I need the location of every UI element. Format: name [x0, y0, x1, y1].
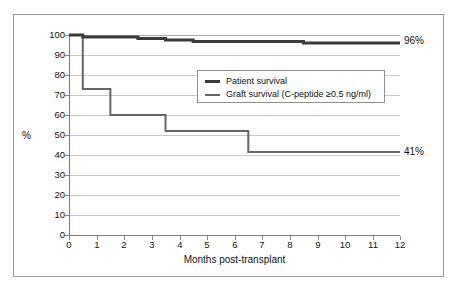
- y-tickmark: [65, 175, 69, 176]
- y-tickmark: [65, 35, 69, 36]
- y-tick-label: 100: [35, 30, 65, 40]
- legend-entry-graft-survival: Graft survival (C-peptide ≥0.5 ng/ml): [205, 88, 378, 101]
- gridline-20: [69, 195, 400, 196]
- chart-legend: Patient survival Graft survival (C-pepti…: [197, 70, 385, 103]
- y-tickmark: [65, 195, 69, 196]
- y-tick-label: 20: [35, 190, 65, 200]
- y-tick-label: 70: [35, 90, 65, 100]
- x-axis-title: Months post-transplant: [69, 254, 400, 265]
- x-tick-label: 2: [111, 240, 137, 250]
- gridline-40: [69, 155, 400, 156]
- y-tickmark: [65, 215, 69, 216]
- x-tick-label: 12: [387, 240, 413, 250]
- y-tick-label: 60: [35, 110, 65, 120]
- chart-figure: 100 90 80 70 60 50 40 30 20 10 0 % 0 1 2…: [0, 0, 457, 295]
- endpoint-annotation-patient: 96%: [404, 36, 424, 46]
- x-tick-label: 11: [360, 240, 386, 250]
- x-tick-label: 9: [305, 240, 331, 250]
- x-tick-label: 8: [277, 240, 303, 250]
- x-tick-label: 4: [167, 240, 193, 250]
- gridline-50: [69, 135, 400, 136]
- gridline-30: [69, 175, 400, 176]
- x-tick-label: 5: [194, 240, 220, 250]
- y-tick-label: 40: [35, 150, 65, 160]
- gridline-100: [69, 35, 400, 36]
- y-tickmark: [65, 155, 69, 156]
- legend-line-swatch-icon: [205, 80, 220, 83]
- endpoint-annotation-graft: 41%: [404, 147, 424, 157]
- y-tick-label: 50: [35, 130, 65, 140]
- legend-entry-patient-survival: Patient survival: [205, 75, 378, 88]
- y-tick-label: 80: [35, 70, 65, 80]
- x-tick-label: 10: [332, 240, 358, 250]
- y-tickmark: [65, 55, 69, 56]
- y-tick-label: 0: [35, 230, 65, 240]
- gridline-60: [69, 115, 400, 116]
- y-tickmark: [65, 135, 69, 136]
- y-axis-line: [69, 35, 70, 236]
- y-tick-label: 30: [35, 170, 65, 180]
- y-tickmark: [65, 95, 69, 96]
- x-tick-label: 3: [139, 240, 165, 250]
- legend-line-swatch-icon: [205, 94, 220, 96]
- y-tickmark: [65, 115, 69, 116]
- x-tick-label: 1: [84, 240, 110, 250]
- legend-label: Patient survival: [226, 76, 287, 87]
- y-tick-label: 10: [35, 210, 65, 220]
- gridline-90: [69, 55, 400, 56]
- legend-label: Graft survival (C-peptide ≥0.5 ng/ml): [226, 89, 371, 100]
- x-tick-label: 0: [56, 240, 82, 250]
- gridline-10: [69, 215, 400, 216]
- y-tick-label: 90: [35, 50, 65, 60]
- x-tick-label: 7: [249, 240, 275, 250]
- plot-area: [69, 35, 400, 235]
- y-axis-title: %: [22, 130, 31, 141]
- x-axis-ticks: 0 1 2 3 4 5 6 7 8 9 10 11 12: [0, 240, 457, 254]
- y-tickmark: [65, 75, 69, 76]
- x-tick-label: 6: [222, 240, 248, 250]
